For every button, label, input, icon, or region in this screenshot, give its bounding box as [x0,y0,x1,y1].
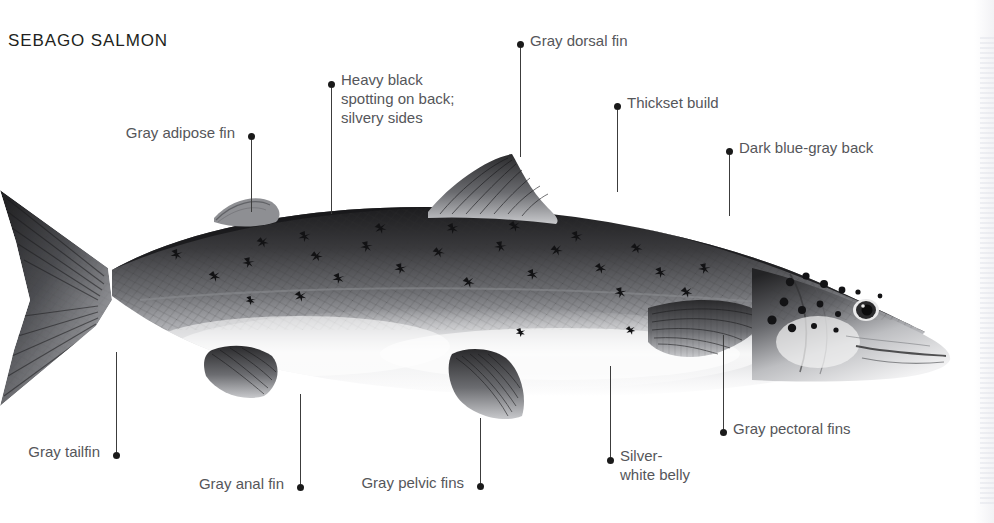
callout-label-gray-tailfin: Gray tailfin [28,442,100,461]
callout-label-line-1: Silver- [620,446,690,465]
field-guide-page: SEBAGO SALMON Gray adipose fin Heavy bla… [0,0,994,523]
dorsal-fin [428,154,558,224]
callout-dot-gray-pelvic-fins [477,483,484,490]
leader-line-silver-white-belly [610,366,611,457]
callout-dot-silver-white-belly [607,457,614,464]
leader-line-gray-pelvic-fins [480,418,481,483]
callout-dot-dark-blue-gray-back [726,148,733,155]
callout-label-gray-anal-fin: Gray anal fin [199,474,284,493]
leader-line-gray-pectoral-fins [723,335,724,429]
callout-label-gray-adipose-fin: Gray adipose fin [126,123,235,142]
callout-label-gray-pectoral-fins: Gray pectoral fins [733,419,851,438]
callout-dot-gray-dorsal-fin [517,41,524,48]
leader-line-heavy-black-spotting [331,88,332,214]
callout-dot-gray-tailfin [113,452,120,459]
callout-label-dark-blue-gray-back: Dark blue-gray back [739,138,873,157]
callout-label-thickset-build: Thickset build [627,93,719,112]
callout-label-line-1: Heavy black [341,70,454,89]
leader-line-gray-tailfin [116,352,117,452]
callout-label-silver-white-belly: Silver- white belly [620,446,690,484]
callout-dot-gray-pectoral-fins [720,429,727,436]
callout-dot-thickset-build [614,103,621,110]
callout-label-heavy-black-spotting: Heavy black spotting on back; silvery si… [341,70,454,127]
callout-label-line-2: spotting on back; [341,89,454,108]
leader-line-gray-anal-fin [300,394,301,484]
leader-line-thickset-build [617,110,618,192]
callout-label-line-3: silvery sides [341,108,454,127]
head [750,260,960,382]
callout-label-gray-pelvic-fins: Gray pelvic fins [361,473,464,492]
page-edge-artifact [974,0,994,523]
salmon-illustration [0,150,960,440]
callout-label-gray-dorsal-fin: Gray dorsal fin [530,31,628,50]
tail-fin [0,190,112,406]
leader-line-gray-adipose-fin [251,140,252,212]
callout-dot-gray-adipose-fin [248,133,255,140]
callout-label-line-2: white belly [620,465,690,484]
eye [853,299,879,321]
callout-dot-gray-anal-fin [297,484,304,491]
leader-line-gray-dorsal-fin [520,48,521,157]
page-title: SEBAGO SALMON [8,31,168,51]
leader-line-dark-blue-gray-back [729,155,730,216]
adipose-fin [214,198,279,226]
callout-dot-heavy-black-spotting [328,81,335,88]
anal-fin [204,346,278,398]
